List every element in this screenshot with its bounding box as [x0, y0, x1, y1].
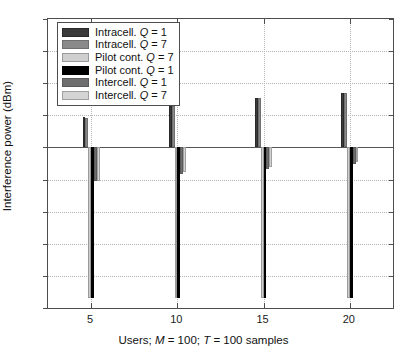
- bar: [269, 147, 272, 166]
- bar: [341, 93, 344, 148]
- bar: [180, 147, 183, 173]
- y-axis-title: Interference power (dBm): [0, 0, 15, 291]
- bar: [356, 147, 359, 162]
- zero-baseline: [48, 147, 393, 148]
- y-tick-mark-right: [389, 51, 393, 52]
- bar: [264, 147, 267, 298]
- x-tick-mark: [264, 303, 265, 308]
- x-tick-mark: [177, 303, 178, 308]
- bar: [88, 147, 91, 298]
- bar: [169, 106, 172, 148]
- x-tick-label: 10: [156, 313, 196, 325]
- legend-item[interactable]: Pilot cont. Q = 1: [62, 64, 174, 77]
- y-tick-mark: [43, 51, 48, 52]
- y-tick-mark-right: [389, 244, 393, 245]
- legend-item[interactable]: Intercell. Q = 1: [62, 76, 174, 89]
- y-tick-mark: [43, 244, 48, 245]
- y-tick-mark-right: [389, 212, 393, 213]
- bar: [83, 117, 86, 148]
- bar: [344, 93, 347, 147]
- legend-label: Intercell. Q = 7: [95, 90, 167, 101]
- y-tick-mark-right: [389, 83, 393, 84]
- x-tick-label: 5: [70, 313, 110, 325]
- y-tick-mark-right: [389, 115, 393, 116]
- x-tick-mark: [91, 303, 92, 308]
- gridline-horizontal: [48, 244, 393, 245]
- y-tick-mark: [43, 180, 48, 181]
- legend-swatch: [62, 53, 89, 62]
- bar: [177, 147, 180, 298]
- legend-swatch: [62, 40, 89, 49]
- bar: [94, 147, 97, 181]
- y-tick-mark-right: [389, 19, 393, 20]
- legend: Intracell. Q = 1Intracell. Q = 7Pilot co…: [57, 22, 180, 106]
- legend-label: Intracell. Q = 1: [95, 27, 167, 38]
- legend-item[interactable]: Intracell. Q = 1: [62, 26, 174, 39]
- x-tick-label: 15: [243, 313, 283, 325]
- x-tick-mark: [350, 303, 351, 308]
- bar: [255, 98, 258, 148]
- gridline-horizontal: [48, 276, 393, 277]
- bar: [353, 147, 356, 164]
- x-axis-title: Users; M = 100; T = 100 samples: [0, 334, 407, 346]
- legend-item[interactable]: Pilot cont. Q = 7: [62, 51, 174, 64]
- bar: [350, 147, 353, 298]
- x-tick-mark-top: [264, 19, 265, 24]
- y-tick-mark: [43, 83, 48, 84]
- y-tick-mark: [43, 147, 48, 148]
- legend-item[interactable]: Intracell. Q = 7: [62, 39, 174, 52]
- bar: [347, 147, 350, 298]
- bar: [175, 147, 178, 298]
- legend-label: Intracell. Q = 7: [95, 39, 167, 50]
- legend-item[interactable]: Intercell. Q = 7: [62, 89, 174, 102]
- gridline-horizontal: [48, 180, 393, 181]
- chart-figure: Interference power (dBm) 403020100-10-20…: [0, 0, 407, 358]
- x-axis-title-text: Users; M = 100; T = 100 samples: [118, 334, 288, 346]
- legend-label: Pilot cont. Q = 1: [95, 65, 174, 76]
- y-tick-mark: [43, 276, 48, 277]
- bar: [266, 147, 269, 168]
- bar: [261, 147, 264, 298]
- y-tick-mark: [43, 115, 48, 116]
- bar: [183, 147, 186, 171]
- y-axis-title-text: Interference power (dBm): [1, 80, 13, 210]
- y-tick-mark-right: [389, 308, 393, 309]
- legend-label: Pilot cont. Q = 7: [95, 52, 174, 63]
- legend-label: Intercell. Q = 1: [95, 77, 167, 88]
- y-tick-mark: [43, 19, 48, 20]
- y-tick-mark-right: [389, 147, 393, 148]
- y-tick-mark: [43, 212, 48, 213]
- legend-swatch: [62, 66, 89, 75]
- legend-swatch: [62, 28, 89, 37]
- gridline-horizontal: [48, 212, 393, 213]
- bar: [91, 147, 94, 298]
- bar: [85, 118, 88, 148]
- x-tick-mark-top: [350, 19, 351, 24]
- legend-swatch: [62, 91, 89, 100]
- bar: [97, 147, 100, 180]
- y-tick-mark: [43, 308, 48, 309]
- bar: [172, 106, 175, 147]
- bar: [258, 98, 261, 147]
- y-tick-mark-right: [389, 276, 393, 277]
- legend-swatch: [62, 78, 89, 87]
- y-tick-mark-right: [389, 180, 393, 181]
- x-tick-label: 20: [329, 313, 369, 325]
